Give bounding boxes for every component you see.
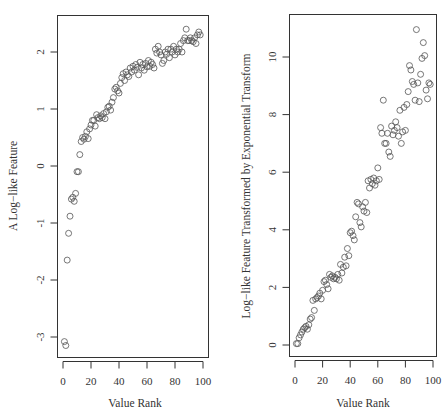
- right-y-tick-label: 6: [266, 169, 278, 175]
- right-x-tick-label: 100: [425, 374, 442, 386]
- data-point: [378, 125, 384, 131]
- right-y-tick-label: 0: [266, 342, 278, 348]
- left-y-tick-label: -1: [34, 218, 46, 227]
- data-point: [383, 140, 389, 146]
- left-y-tick-label: -3: [34, 332, 46, 342]
- left-y-tick-label: -2: [34, 275, 46, 284]
- data-point: [342, 254, 348, 260]
- data-point: [397, 107, 403, 113]
- left-data-points: [61, 26, 203, 348]
- data-point: [416, 99, 422, 105]
- data-point: [427, 81, 433, 87]
- right-x-tick-label: 20: [317, 374, 329, 386]
- right-y-axis-title: Log−like Feature Transformed by Exponent…: [240, 54, 253, 319]
- data-point: [66, 230, 72, 236]
- right-plot-frame: [290, 15, 437, 357]
- data-point: [412, 97, 418, 103]
- data-point: [346, 253, 352, 259]
- left-x-tick-label: 40: [114, 375, 126, 387]
- data-point: [426, 80, 432, 86]
- right-x-tick-label: 80: [400, 374, 412, 386]
- data-point: [339, 270, 345, 276]
- right-y-tick-label: 2: [266, 285, 278, 291]
- data-point: [92, 123, 98, 129]
- data-point: [309, 315, 315, 321]
- data-point: [126, 74, 132, 80]
- left-y-axis: -3-2-1012: [34, 49, 58, 341]
- data-point: [63, 343, 69, 349]
- data-point: [367, 185, 373, 191]
- data-point: [420, 40, 426, 46]
- data-point: [351, 237, 357, 243]
- data-point: [353, 214, 359, 220]
- data-point: [356, 201, 362, 207]
- data-point: [314, 295, 320, 301]
- right-x-tick-label: 40: [345, 374, 357, 386]
- data-point: [354, 199, 360, 205]
- left-x-tick-label: 60: [142, 375, 154, 387]
- figure-canvas: 020406080100 -3-2-1012 Value Rank A Log−…: [0, 0, 447, 414]
- data-point: [61, 339, 67, 345]
- data-point: [357, 220, 363, 226]
- data-point: [136, 72, 142, 78]
- data-point: [91, 117, 97, 123]
- right-data-points: [293, 27, 433, 347]
- right-y-tick-label: 4: [266, 227, 278, 233]
- left-x-tick-label: 80: [170, 375, 182, 387]
- left-y-tick-label: 2: [34, 49, 46, 55]
- right-x-axis: 020406080100: [292, 361, 442, 386]
- data-point: [307, 316, 313, 322]
- right-x-tick-label: 0: [292, 374, 298, 386]
- data-point: [418, 71, 424, 77]
- left-y-axis-title: A Log−like Feature: [7, 141, 20, 231]
- right-y-tick-label: 8: [266, 111, 278, 117]
- data-point: [183, 26, 189, 32]
- left-x-tick-label: 100: [195, 375, 212, 387]
- left-y-tick-label: 1: [34, 106, 46, 112]
- data-point: [75, 169, 81, 175]
- data-point: [362, 199, 368, 205]
- data-point: [344, 246, 350, 252]
- data-point: [398, 140, 404, 146]
- data-point: [413, 27, 419, 33]
- data-point: [74, 169, 80, 175]
- data-point: [425, 96, 431, 102]
- data-point: [382, 140, 388, 146]
- right-x-tick-label: 60: [372, 374, 384, 386]
- right-x-axis-title: Value Rank: [336, 397, 390, 409]
- left-x-tick-label: 0: [60, 375, 66, 387]
- left-x-tick-label: 20: [86, 375, 98, 387]
- data-point: [322, 277, 328, 283]
- left-scatter-plot: 020406080100 -3-2-1012 Value Rank A Log−…: [7, 16, 212, 410]
- data-point: [405, 89, 411, 95]
- data-point: [77, 152, 83, 158]
- left-y-tick-label: 0: [34, 163, 46, 169]
- data-point: [379, 130, 385, 136]
- data-point: [67, 213, 73, 219]
- data-point: [295, 341, 301, 347]
- right-y-axis: 0246810: [266, 51, 290, 348]
- data-point: [385, 130, 391, 136]
- right-y-tick-label: 10: [266, 51, 278, 63]
- data-point: [358, 224, 364, 230]
- data-point: [423, 87, 429, 93]
- data-point: [393, 119, 399, 125]
- data-point: [415, 80, 421, 86]
- data-point: [311, 307, 317, 313]
- data-point: [117, 80, 123, 86]
- data-point: [293, 341, 299, 347]
- right-scatter-plot: 020406080100 0246810 Value Rank Log−like…: [240, 15, 442, 410]
- data-point: [375, 165, 381, 171]
- data-point: [64, 257, 70, 263]
- data-point: [380, 97, 386, 103]
- left-x-axis: 020406080100: [60, 362, 212, 387]
- left-x-axis-title: Value Rank: [108, 397, 162, 409]
